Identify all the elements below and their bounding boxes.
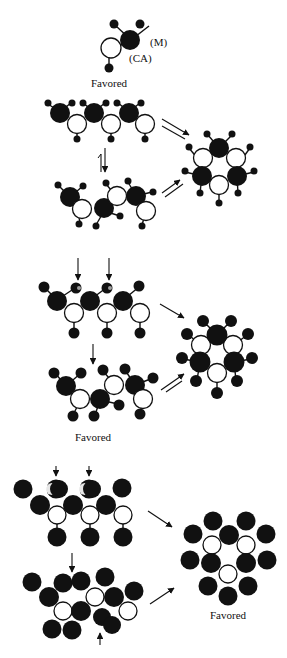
panel-medium-substituent: Favored [39,258,259,443]
cyclic-product-3 [181,512,277,606]
reaction-diagram: (M) (CA) Favored [0,0,287,658]
favored-label-legend: Favored [91,77,128,89]
linear-chain-top [45,100,155,143]
linear-chain-top [39,281,150,339]
m-label: (M) [150,36,167,49]
linear-chain-bottom [55,178,157,230]
linear-chain-bottom [49,364,159,422]
legend: (M) (CA) Favored [91,20,167,90]
linear-chain-bottom [23,568,144,640]
cyclic-product-1 [182,131,258,207]
favored-label-panel-2: Favored [75,431,112,443]
ca-atom-icon [101,38,121,58]
metal-atom-icon [120,30,140,50]
cyclic-product-2 [176,315,258,399]
ca-label: (CA) [129,52,152,65]
favored-label-panel-3: Favored [210,609,247,621]
panel-large-substituent: Favored [14,466,277,645]
linear-chain-top [14,479,133,547]
panel-small-substituent [45,100,258,230]
